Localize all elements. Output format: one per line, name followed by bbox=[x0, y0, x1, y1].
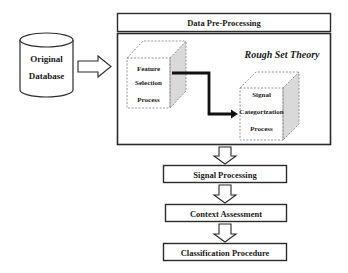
context-assessment-box: Context Assessment bbox=[166, 205, 287, 222]
database-label-line2: Database bbox=[29, 71, 65, 81]
data-preprocessing-box: Data Pre-Processing bbox=[118, 14, 331, 32]
rough-set-theory-title: Rough Set Theory bbox=[243, 49, 320, 60]
classification-procedure-box: Classification Procedure bbox=[164, 244, 287, 261]
feature-cube-line1: Feature bbox=[137, 65, 160, 73]
signal-processing-box: Signal Processing bbox=[164, 166, 287, 183]
hollow-right-arrow-icon bbox=[78, 56, 111, 77]
original-database-cylinder: Original Database bbox=[20, 33, 73, 97]
signal-cube-line2: Categorization bbox=[239, 108, 283, 116]
classification-procedure-label: Classification Procedure bbox=[181, 248, 270, 258]
signal-cube-line1: Signal bbox=[252, 91, 271, 99]
data-preprocessing-label: Data Pre-Processing bbox=[187, 18, 261, 28]
database-label-line1: Original bbox=[30, 54, 63, 64]
signal-processing-label: Signal Processing bbox=[193, 170, 257, 180]
feature-cube-line3: Process bbox=[137, 96, 160, 104]
hollow-down-arrow-icon bbox=[214, 147, 236, 164]
feature-cube-line2: Selection bbox=[135, 79, 162, 87]
hollow-down-arrow-icon bbox=[214, 224, 236, 242]
context-assessment-label: Context Assessment bbox=[190, 209, 262, 219]
flow-diagram: Original Database Data Pre-Processing Ro… bbox=[0, 0, 348, 273]
signal-cube-line3: Process bbox=[250, 125, 273, 133]
hollow-down-arrow-icon bbox=[214, 185, 236, 203]
